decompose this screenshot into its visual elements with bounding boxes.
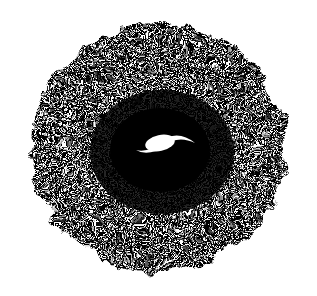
- stippled-galaxy-image: [0, 0, 317, 296]
- dense-core: [90, 90, 234, 214]
